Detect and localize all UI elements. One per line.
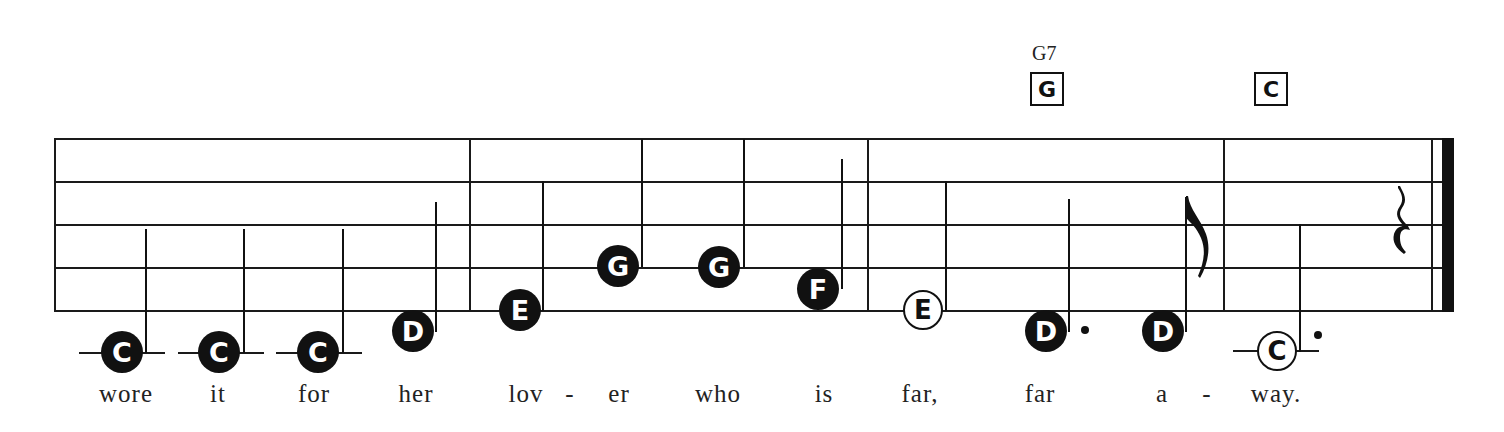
lyric-syllable: wore (99, 380, 153, 408)
note-stem (945, 181, 947, 311)
note-stem (743, 139, 745, 267)
note-c-dotted-half: C (1257, 331, 1297, 371)
lyric-syllable: a (1156, 380, 1168, 408)
staff-line-5 (54, 310, 1454, 312)
note-e-half: E (903, 290, 943, 330)
note-c: C (101, 331, 143, 373)
barline-1 (469, 138, 471, 312)
lyric-hyphen: - (565, 380, 574, 408)
note-stem (145, 229, 147, 353)
lyric-syllable: lov (509, 380, 544, 408)
chord-box-c: C (1254, 72, 1288, 106)
chord-box-g: G (1030, 72, 1064, 106)
barline-2 (867, 138, 869, 312)
note-d-eighth: D (1142, 310, 1184, 352)
lyric-syllable: it (210, 380, 226, 408)
note-stem (641, 139, 643, 267)
note-c: C (198, 331, 240, 373)
augmentation-dot (1314, 331, 1322, 339)
note-g: G (597, 245, 639, 287)
lyric-syllable: way. (1251, 380, 1301, 408)
staff-line-1 (54, 138, 1454, 140)
eighth-flag-icon (1186, 196, 1216, 278)
lyric-syllable: is (815, 380, 834, 408)
lyric-syllable: far (1025, 380, 1056, 408)
note-stem (1068, 199, 1070, 332)
lyric-syllable: her (399, 380, 434, 408)
note-d: D (392, 310, 434, 352)
staff-line-4 (54, 267, 1454, 269)
lyric-syllable: for (298, 380, 330, 408)
final-barline-thin (1431, 138, 1433, 312)
sheet-music-score: G7 G C C C C D E G G F E D D C wo (0, 0, 1504, 432)
lyric-hyphen: - (1202, 380, 1211, 408)
augmentation-dot (1081, 326, 1089, 334)
note-stem (1299, 224, 1301, 352)
chord-name-g7: G7 (1032, 42, 1056, 65)
staff-line-3 (54, 224, 1454, 226)
final-barline-thick (1442, 138, 1454, 312)
note-stem (542, 181, 544, 311)
staff-line-2 (54, 181, 1454, 183)
note-stem (841, 159, 843, 289)
barline-3 (1223, 138, 1225, 312)
note-f: F (797, 268, 839, 310)
lyric-syllable: who (695, 380, 741, 408)
lyric-syllable: far, (902, 380, 939, 408)
note-stem (435, 202, 437, 332)
note-e: E (499, 289, 541, 331)
note-g: G (698, 246, 740, 288)
note-d-dotted: D (1025, 310, 1067, 352)
barline-start (54, 138, 56, 312)
note-stem (243, 229, 245, 353)
quarter-rest-icon (1390, 186, 1418, 256)
lyric-syllable: er (608, 380, 629, 408)
note-stem (342, 229, 344, 353)
note-c: C (297, 331, 339, 373)
